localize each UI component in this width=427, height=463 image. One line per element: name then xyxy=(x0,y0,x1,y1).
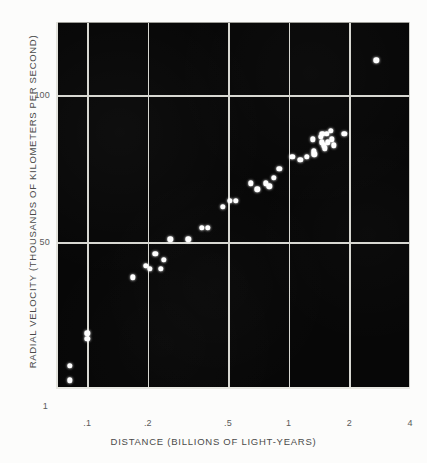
data-point xyxy=(328,128,333,133)
data-point xyxy=(255,187,260,192)
x-tick-label-2: 2 xyxy=(347,418,352,428)
data-point xyxy=(67,363,72,368)
x-tick-label-p1: .1 xyxy=(83,418,91,428)
data-point xyxy=(158,266,163,271)
panel-edge-top xyxy=(56,22,410,23)
data-point xyxy=(304,154,309,159)
data-point xyxy=(374,57,379,62)
data-point xyxy=(233,198,238,203)
data-point xyxy=(271,175,276,180)
data-point xyxy=(167,237,172,242)
plot-area xyxy=(56,22,410,389)
x-tick-label-4: 4 xyxy=(407,418,412,428)
data-point xyxy=(67,377,72,382)
data-point xyxy=(85,331,90,336)
data-point xyxy=(186,237,191,242)
data-point xyxy=(85,336,90,341)
panel-edge-left xyxy=(56,22,58,389)
data-point xyxy=(329,137,334,142)
data-point xyxy=(310,137,315,142)
data-point xyxy=(153,251,158,256)
data-point xyxy=(297,157,302,162)
data-point xyxy=(277,166,282,171)
data-point xyxy=(130,275,135,280)
vertical-gridline-1 xyxy=(289,22,291,389)
plate-grain-texture xyxy=(56,22,410,389)
data-point xyxy=(312,151,317,156)
horizontal-gridline-50 xyxy=(56,242,410,244)
data-point xyxy=(289,154,294,159)
panel-edge-right xyxy=(409,22,410,389)
x-axis-title: DISTANCE (BILLIONS OF LIGHT-YEARS) xyxy=(0,436,427,447)
data-point xyxy=(161,257,166,262)
horizontal-gridline-100 xyxy=(56,95,410,97)
vertical-gridline-p2 xyxy=(148,22,150,389)
origin-tick-label: 1 xyxy=(34,401,48,411)
hubble-diagram-figure: .1.2.5124 50100 1 DISTANCE (BILLIONS OF … xyxy=(0,0,427,463)
y-axis-title: RADIAL VELOCITY (THOUSANDS OF KILOMETERS… xyxy=(27,22,38,382)
vertical-gridline-p5 xyxy=(228,22,230,389)
data-point xyxy=(266,184,271,189)
data-point xyxy=(322,146,327,151)
x-tick-label-p5: .5 xyxy=(224,418,232,428)
data-point xyxy=(147,266,152,271)
data-point xyxy=(220,204,225,209)
data-point xyxy=(342,131,347,136)
panel-edge-bottom xyxy=(56,387,410,389)
data-point xyxy=(331,143,336,148)
x-tick-label-p2: .2 xyxy=(144,418,152,428)
vertical-gridline-2 xyxy=(349,22,351,389)
data-point xyxy=(205,225,210,230)
x-tick-label-1: 1 xyxy=(286,418,291,428)
data-point xyxy=(248,181,253,186)
data-point xyxy=(199,225,204,230)
data-point xyxy=(227,198,232,203)
